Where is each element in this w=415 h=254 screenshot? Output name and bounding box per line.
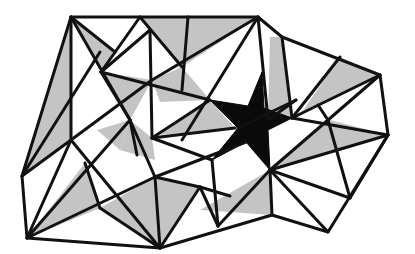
shaded-triangle <box>140 17 258 67</box>
edge <box>155 142 246 177</box>
edge <box>270 170 272 215</box>
triangulation-diagram <box>0 0 415 254</box>
edge <box>318 105 328 120</box>
